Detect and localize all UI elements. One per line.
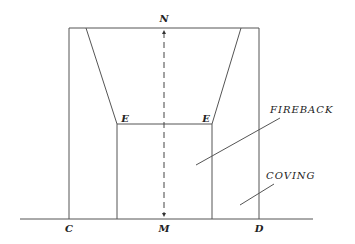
label-M: M <box>158 224 169 234</box>
fireback-leader-line <box>196 118 280 165</box>
label-E-right: E <box>202 114 210 124</box>
fireplace-plan-diagram <box>0 0 355 244</box>
left-coving-slope <box>86 28 117 124</box>
label-fireback: FIREBACK <box>270 105 333 115</box>
label-C: C <box>65 224 73 234</box>
coving-leader-line <box>240 184 274 205</box>
right-coving-slope <box>212 28 241 124</box>
label-D: D <box>255 224 264 234</box>
label-N: N <box>159 14 168 24</box>
label-coving: COVING <box>266 171 316 181</box>
label-E-left: E <box>121 114 129 124</box>
